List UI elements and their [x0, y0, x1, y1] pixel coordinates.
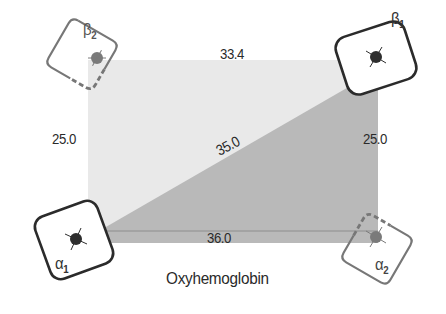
subscript: 2: [91, 29, 96, 41]
distance-left: 25.0: [52, 130, 76, 147]
subscript: 2: [383, 264, 388, 276]
label-alpha2: α2: [375, 255, 388, 276]
diagram-title: Oxyhemoglobin: [166, 269, 269, 289]
distance-bottom: 36.0: [207, 229, 231, 246]
label-alpha1: α1: [55, 254, 68, 275]
label-beta2: β2: [83, 20, 96, 41]
distance-right: 25.0: [363, 130, 387, 147]
distance-top: 33.4: [220, 45, 244, 62]
subscript: 1: [63, 263, 68, 275]
subscript: 1: [399, 18, 404, 30]
label-beta1: β1: [391, 9, 404, 30]
